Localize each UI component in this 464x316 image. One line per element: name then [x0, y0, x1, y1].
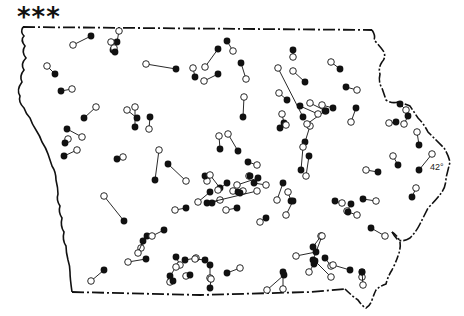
open-circle-marker	[276, 90, 283, 97]
station-pair	[225, 131, 242, 155]
station-pair	[290, 47, 297, 61]
filled-circle-marker	[207, 262, 214, 269]
open-circle-marker	[413, 185, 420, 192]
open-circle-marker	[315, 111, 322, 118]
open-circle-marker	[156, 147, 163, 154]
station-pair	[224, 38, 237, 55]
filled-circle-marker	[143, 256, 150, 263]
filled-circle-marker	[337, 66, 344, 73]
filled-circle-marker	[207, 189, 214, 196]
filled-circle-marker	[170, 278, 177, 285]
open-circle-marker	[93, 104, 100, 111]
filled-circle-marker	[409, 194, 416, 201]
open-circle-marker	[190, 65, 197, 72]
open-circle-marker	[263, 182, 270, 189]
open-circle-marker	[330, 262, 337, 269]
filled-circle-marker	[393, 119, 400, 126]
station-pair	[190, 65, 199, 81]
iowa-map	[0, 0, 464, 316]
open-circle-marker	[283, 212, 290, 219]
filled-circle-marker	[217, 146, 224, 153]
station-pair	[70, 33, 95, 49]
filled-circle-marker	[132, 124, 139, 131]
station-pair	[224, 265, 244, 277]
open-circle-marker	[279, 111, 286, 118]
open-circle-marker	[149, 233, 156, 240]
open-circle-marker	[172, 207, 179, 214]
filled-circle-marker	[284, 97, 291, 104]
open-circle-marker	[354, 212, 361, 219]
open-circle-marker	[373, 198, 380, 205]
filled-circle-marker	[235, 148, 242, 155]
open-circle-marker	[234, 182, 241, 189]
station-pair	[167, 278, 177, 286]
station-pair	[303, 153, 313, 180]
filled-circle-marker	[224, 38, 231, 45]
filled-circle-marker	[161, 227, 168, 234]
filled-circle-marker	[322, 255, 329, 262]
station-pair	[345, 209, 361, 219]
open-circle-marker	[195, 199, 202, 206]
filled-circle-marker	[300, 114, 307, 121]
pair-connector	[146, 64, 176, 69]
station-pair	[101, 193, 128, 225]
open-circle-marker	[429, 151, 436, 158]
station-pair	[277, 122, 290, 132]
open-circle-marker	[216, 133, 223, 140]
station-pair	[240, 94, 248, 121]
filled-circle-marker	[345, 209, 352, 216]
station-pair	[343, 84, 361, 94]
station-pair	[216, 133, 224, 153]
open-circle-marker	[173, 264, 180, 271]
east-border	[372, 30, 450, 241]
station-pair	[149, 227, 168, 240]
station-pair	[245, 159, 261, 169]
filled-circle-marker	[202, 257, 209, 264]
filled-circle-marker	[58, 88, 65, 95]
filled-circle-marker	[348, 201, 355, 208]
station-pair	[246, 173, 254, 180]
station-pair	[409, 185, 420, 201]
filled-circle-marker	[313, 249, 320, 256]
filled-circle-marker	[330, 105, 337, 112]
open-circle-marker	[230, 48, 237, 55]
filled-circle-marker	[353, 105, 360, 112]
filled-circle-marker	[121, 218, 128, 225]
filled-circle-marker	[224, 270, 231, 277]
filled-circle-marker	[88, 33, 95, 40]
station-pair	[348, 105, 360, 126]
filled-circle-marker	[397, 101, 404, 108]
filled-circle-marker	[332, 198, 339, 205]
open-circle-marker	[257, 219, 264, 226]
station-pair	[401, 113, 412, 128]
station-pairs	[44, 28, 436, 294]
filled-circle-marker	[64, 126, 71, 133]
open-circle-marker	[403, 107, 410, 114]
filled-circle-marker	[405, 113, 412, 120]
filled-circle-marker	[204, 200, 211, 207]
filled-circle-marker	[240, 114, 247, 121]
filled-circle-marker	[173, 254, 180, 261]
open-circle-marker	[264, 287, 271, 294]
station-pair	[304, 108, 329, 128]
open-circle-marker	[304, 121, 311, 128]
open-circle-marker	[143, 61, 150, 68]
station-pair	[332, 198, 346, 207]
station-pair	[363, 167, 382, 176]
filled-circle-marker	[187, 272, 194, 279]
filled-circle-marker	[263, 215, 270, 222]
filled-circle-marker	[52, 71, 59, 78]
open-circle-marker	[120, 154, 127, 161]
open-circle-marker	[183, 178, 190, 185]
open-circle-marker	[254, 162, 261, 169]
station-pair	[114, 154, 127, 163]
station-pair	[183, 272, 194, 280]
north-border	[23, 27, 372, 30]
filled-circle-marker	[207, 285, 214, 292]
latitude-label: 42°	[430, 162, 444, 172]
station-pair	[360, 196, 380, 205]
open-circle-marker	[360, 282, 367, 289]
filled-circle-marker	[360, 196, 367, 203]
open-circle-marker	[414, 129, 421, 136]
filled-circle-marker	[302, 79, 309, 86]
